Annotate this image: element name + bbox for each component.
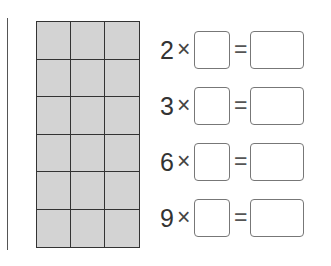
multiplier: 3	[160, 91, 174, 121]
grid-cell	[105, 22, 139, 60]
grid-cell	[105, 60, 139, 98]
product-answer-box[interactable]	[250, 143, 304, 181]
multiplier: 9	[160, 203, 174, 233]
factor-answer-box[interactable]	[194, 199, 230, 237]
grid-cell	[37, 22, 71, 60]
grid-cell	[71, 135, 105, 173]
grid-cell	[71, 22, 105, 60]
product-answer-box[interactable]	[250, 31, 304, 69]
factor-answer-box[interactable]	[194, 31, 230, 69]
times-sign: ×	[177, 90, 190, 120]
times-sign: ×	[177, 34, 190, 64]
equals-sign: =	[234, 202, 247, 232]
factor-answer-box[interactable]	[194, 87, 230, 125]
grid-cell	[71, 97, 105, 135]
square-grid	[36, 21, 140, 248]
grid-cell	[37, 210, 71, 248]
times-sign: ×	[177, 202, 190, 232]
grid-cell	[71, 210, 105, 248]
margin-line	[7, 18, 8, 250]
grid-cell	[37, 172, 71, 210]
grid-cell	[71, 172, 105, 210]
equation-row-1: 2 × =	[160, 31, 320, 69]
grid-cell	[37, 135, 71, 173]
product-answer-box[interactable]	[250, 87, 304, 125]
equals-sign: =	[234, 90, 247, 120]
equation-row-4: 9 × =	[160, 199, 320, 237]
equation-row-2: 3 × =	[160, 87, 320, 125]
times-sign: ×	[177, 146, 190, 176]
grid-cell	[105, 97, 139, 135]
grid-cell	[105, 210, 139, 248]
grid-cell	[71, 60, 105, 98]
equals-sign: =	[234, 34, 247, 64]
equation-row-3: 6 × =	[160, 143, 320, 181]
multiplier: 6	[160, 147, 174, 177]
product-answer-box[interactable]	[250, 199, 304, 237]
grid-cell	[37, 60, 71, 98]
grid-cell	[105, 172, 139, 210]
grid-cell	[37, 97, 71, 135]
multiplier: 2	[160, 35, 174, 65]
grid-cell	[105, 135, 139, 173]
factor-answer-box[interactable]	[194, 143, 230, 181]
equals-sign: =	[234, 146, 247, 176]
